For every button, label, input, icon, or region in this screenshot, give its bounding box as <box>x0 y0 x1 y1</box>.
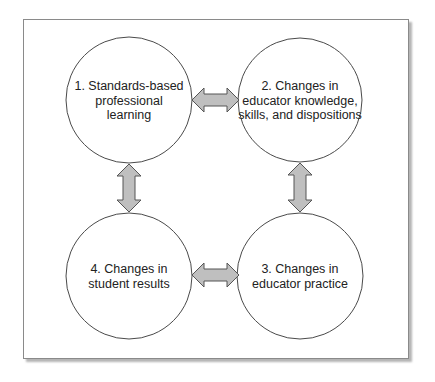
node-2-line-1: 2. Changes in <box>235 79 365 94</box>
node-4-label: 4. Changes in student results <box>64 262 194 291</box>
double-arrow-2-3-icon <box>288 163 312 212</box>
node-2-label: 2. Changes in educator knowledge, skills… <box>235 79 365 123</box>
double-arrow-1-2-icon <box>192 88 239 112</box>
double-arrow-3-4-icon <box>192 263 239 287</box>
node-3-line-2: educator practice <box>235 277 365 292</box>
node-4-line-1: 4. Changes in <box>64 262 194 277</box>
node-4-line-2: student results <box>64 277 194 292</box>
double-arrow-1-4-icon <box>117 164 141 212</box>
node-1-label: 1. Standards-based professional learning <box>64 79 194 123</box>
node-2-line-3: skills, and dispositions <box>235 108 365 123</box>
diagram-canvas <box>0 0 435 382</box>
node-1-line-1: 1. Standards-based <box>64 79 194 94</box>
node-1-line-3: learning <box>64 108 194 123</box>
node-3-line-1: 3. Changes in <box>235 262 365 277</box>
node-1-line-2: professional <box>64 94 194 109</box>
node-2-line-2: educator knowledge, <box>235 94 365 109</box>
node-3-label: 3. Changes in educator practice <box>235 262 365 291</box>
